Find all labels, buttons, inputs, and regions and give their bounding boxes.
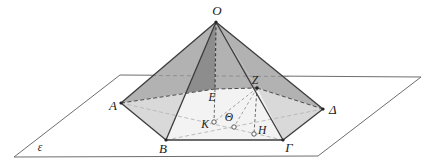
dot-gamma xyxy=(281,138,284,141)
dot-delta xyxy=(321,107,324,110)
label-point-z: Z xyxy=(252,74,259,86)
pyramid-faces xyxy=(121,22,323,140)
marker-theta xyxy=(232,125,236,129)
label-plane-epsilon: ε xyxy=(38,141,43,153)
dot-z xyxy=(255,86,259,90)
label-foot-h: H xyxy=(257,124,267,136)
dot-o xyxy=(214,20,217,23)
label-foot-k: K xyxy=(200,118,210,130)
label-vertex-delta: Δ xyxy=(328,102,337,117)
label-vertex-b: B xyxy=(159,141,167,156)
dot-a xyxy=(119,101,122,104)
label-vertex-e: E xyxy=(207,91,215,103)
geometry-figure: O A B Γ Δ E Z K Θ H ε xyxy=(0,0,435,164)
label-vertex-a: A xyxy=(108,98,117,113)
marker-k xyxy=(212,120,216,124)
label-vertex-gamma: Γ xyxy=(284,140,293,155)
label-apex-o: O xyxy=(212,3,222,18)
label-foot-theta: Θ xyxy=(225,111,234,123)
pyramid-on-plane-diagram: O A B Γ Δ E Z K Θ H ε xyxy=(0,0,435,164)
marker-h xyxy=(252,132,256,136)
